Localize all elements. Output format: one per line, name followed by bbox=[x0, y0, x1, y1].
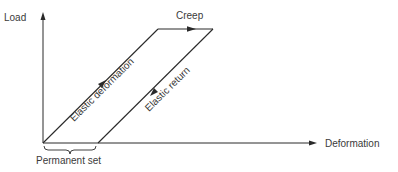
elastic-return-label: Elastic return bbox=[143, 65, 192, 114]
permanent-set-label: Permanent set bbox=[36, 155, 101, 166]
y-axis-label: Load bbox=[4, 12, 26, 23]
creep-arrow-icon bbox=[187, 26, 196, 31]
y-axis bbox=[41, 12, 46, 143]
x-axis-label: Deformation bbox=[325, 138, 379, 149]
creep-label: Creep bbox=[176, 10, 204, 21]
x-axis bbox=[43, 141, 317, 146]
elastic-return-segment bbox=[98, 29, 213, 143]
x-axis-arrow-icon bbox=[309, 141, 317, 146]
y-axis-arrow-icon bbox=[41, 12, 46, 20]
creep-segment bbox=[158, 26, 213, 31]
permanent-set-brace-icon bbox=[44, 146, 96, 154]
elastic-deformation-label: Elastic deformation bbox=[68, 56, 136, 124]
diagram-svg: Load Deformation Elastic deformation Cre… bbox=[0, 0, 398, 172]
load-deformation-diagram: Load Deformation Elastic deformation Cre… bbox=[0, 0, 398, 172]
